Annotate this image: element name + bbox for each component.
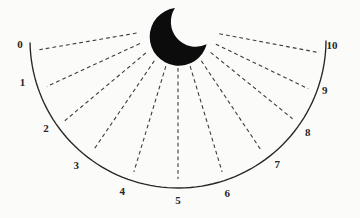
scale-label: 5 (175, 194, 181, 206)
scale-label: 2 (43, 122, 49, 134)
scale-label: 10 (326, 39, 338, 51)
scale-label: 9 (322, 84, 328, 96)
scale-label: 7 (274, 158, 280, 170)
paper-background (0, 0, 360, 218)
moon-rating-scale-diagram: 012345678910 (0, 0, 360, 218)
figure-canvas: 012345678910 (0, 0, 360, 218)
scale-label: 6 (224, 187, 230, 199)
scale-label: 1 (20, 76, 26, 88)
scale-label: 0 (17, 38, 23, 50)
scale-label: 3 (73, 159, 79, 171)
scale-label: 4 (119, 185, 125, 197)
scale-label: 8 (305, 126, 311, 138)
